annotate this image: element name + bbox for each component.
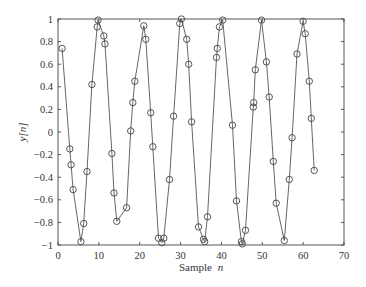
x-tick-label: 0	[55, 250, 60, 261]
y-tick-label: −0.4	[34, 172, 54, 183]
y-axis-label: y[n]	[16, 123, 28, 143]
y-tick-label: 0	[48, 127, 53, 138]
x-axis-label: Sample n	[179, 261, 224, 273]
y-tick-label: 0.2	[40, 104, 53, 115]
data-series	[59, 16, 318, 247]
y-tick-label: 1	[48, 14, 53, 25]
y-tick-label: −1	[42, 240, 53, 251]
series-line	[62, 19, 314, 244]
x-axis-label-text: Sample	[179, 261, 212, 273]
y-tick-label: 0.8	[40, 36, 53, 47]
y-tick-label: −0.8	[34, 217, 53, 228]
y-tick-label: −0.6	[34, 194, 53, 205]
plot-area-frame	[58, 19, 344, 245]
x-tick-label: 10	[94, 250, 105, 261]
chart: 010203040506070 −1−0.8−0.6−0.4−0.200.20.…	[0, 0, 366, 287]
x-tick-label: 20	[134, 250, 145, 261]
y-tick-label: 0.6	[40, 59, 53, 70]
x-tick-label: 70	[339, 250, 350, 261]
x-tick-label: 50	[257, 250, 268, 261]
y-tick-label: 0.4	[40, 81, 54, 92]
x-tick-label: 40	[216, 250, 227, 261]
x-axis-label-var: n	[218, 261, 224, 273]
x-tick-label: 30	[175, 250, 186, 261]
x-tick-label: 60	[298, 250, 309, 261]
y-tick-label: −0.2	[34, 149, 53, 160]
x-axis-ticks: 010203040506070	[55, 19, 349, 261]
